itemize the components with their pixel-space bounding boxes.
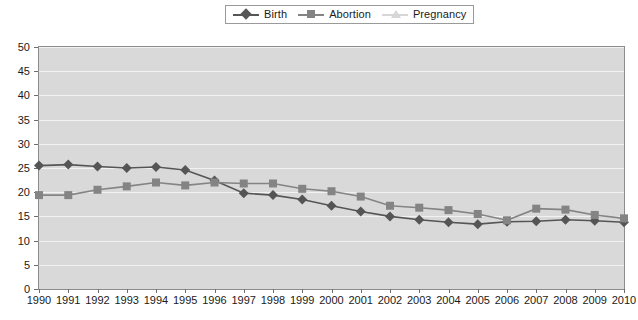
- data-point-marker: [122, 163, 132, 173]
- data-point-marker: [35, 191, 43, 199]
- square-marker-icon: [307, 10, 315, 18]
- data-point-marker: [211, 179, 219, 187]
- x-axis-tick: [595, 289, 596, 293]
- data-point-marker: [123, 182, 131, 190]
- legend-sample-abortion: [298, 9, 324, 20]
- x-axis-tick: [156, 289, 157, 293]
- y-axis-tick-label: 50: [6, 42, 30, 53]
- y-axis-tick-label: 30: [6, 139, 30, 150]
- data-point-marker: [444, 217, 454, 227]
- legend-label-abortion: Abortion: [329, 9, 371, 20]
- legend-label-birth: Birth: [264, 9, 287, 20]
- x-axis-tick: [127, 289, 128, 293]
- data-point-marker: [414, 215, 424, 225]
- chart-legend: Birth Abortion Pregnancy: [225, 5, 474, 24]
- data-point-marker: [415, 204, 423, 212]
- y-axis-tick-label: 20: [6, 187, 30, 198]
- data-point-marker: [180, 165, 190, 175]
- y-axis-tick-label: 45: [6, 66, 30, 77]
- data-point-marker: [63, 160, 73, 170]
- legend-item-pregnancy[interactable]: Pregnancy: [382, 9, 467, 20]
- x-axis-tick: [566, 289, 567, 293]
- triangle-marker-icon: [391, 10, 401, 18]
- data-point-marker: [94, 186, 102, 194]
- x-axis-tick: [419, 289, 420, 293]
- legend-item-abortion[interactable]: Abortion: [298, 9, 371, 20]
- data-point-marker: [64, 191, 72, 199]
- data-point-marker: [620, 214, 628, 222]
- data-point-marker: [445, 206, 453, 214]
- data-point-marker: [181, 181, 189, 189]
- x-axis-tick: [215, 289, 216, 293]
- data-point-marker: [591, 211, 599, 219]
- data-point-marker: [297, 194, 307, 204]
- y-axis-tick-label: 25: [6, 163, 30, 174]
- x-axis-tick: [507, 289, 508, 293]
- x-axis-tick: [361, 289, 362, 293]
- series-lines: [39, 47, 624, 289]
- x-axis-tick: [624, 289, 625, 293]
- x-axis-tick: [478, 289, 479, 293]
- x-axis-tick: [244, 289, 245, 293]
- data-point-marker: [474, 210, 482, 218]
- chart-root: Birth Abortion Pregnancy 051015202530354…: [0, 0, 638, 320]
- data-point-marker: [327, 201, 337, 211]
- x-axis-tick: [536, 289, 537, 293]
- y-axis-tick-label: 10: [6, 236, 30, 247]
- x-axis-tick-label: 2010: [604, 295, 638, 306]
- x-axis-tick: [449, 289, 450, 293]
- x-axis-tick: [390, 289, 391, 293]
- legend-sample-pregnancy: [382, 9, 408, 20]
- data-point-marker: [503, 216, 511, 224]
- x-axis-tick: [302, 289, 303, 293]
- data-point-marker: [386, 202, 394, 210]
- x-axis-tick: [68, 289, 69, 293]
- data-point-marker: [473, 219, 483, 229]
- x-axis-tick: [39, 289, 40, 293]
- x-axis-tick: [98, 289, 99, 293]
- data-point-marker: [151, 162, 161, 172]
- data-point-marker: [531, 216, 541, 226]
- data-point-marker: [298, 185, 306, 193]
- plot-area: [38, 46, 625, 290]
- data-point-marker: [328, 187, 336, 195]
- data-point-marker: [561, 215, 571, 225]
- data-point-marker: [269, 179, 277, 187]
- x-axis-tick: [185, 289, 186, 293]
- data-point-marker: [240, 179, 248, 187]
- data-point-marker: [34, 161, 44, 171]
- data-point-marker: [357, 193, 365, 201]
- y-axis-tick-label: 35: [6, 115, 30, 126]
- legend-sample-birth: [233, 9, 259, 20]
- diamond-marker-icon: [240, 8, 251, 19]
- legend-label-pregnancy: Pregnancy: [413, 9, 467, 20]
- data-point-marker: [356, 207, 366, 217]
- legend-item-birth[interactable]: Birth: [233, 9, 287, 20]
- data-point-marker: [239, 188, 249, 198]
- x-axis-tick: [332, 289, 333, 293]
- y-axis-tick-label: 15: [6, 211, 30, 222]
- data-point-marker: [152, 179, 160, 187]
- x-axis-tick: [273, 289, 274, 293]
- y-axis-tick-label: 5: [6, 260, 30, 271]
- data-point-marker: [532, 205, 540, 213]
- data-point-marker: [93, 162, 103, 172]
- data-point-marker: [562, 206, 570, 214]
- y-axis-tick-label: 40: [6, 90, 30, 101]
- data-point-marker: [268, 190, 278, 200]
- data-point-marker: [385, 211, 395, 221]
